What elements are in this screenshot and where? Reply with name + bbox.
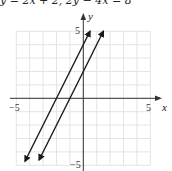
coordinate-plane: −5 5 x 5 −5 y (0, 0, 172, 171)
x-axis-label: x (161, 101, 167, 113)
plotted-lines (25, 31, 103, 161)
y-axis-arrow-icon (81, 13, 87, 20)
x-axis-arrow-icon (155, 96, 162, 102)
y-axis-label: y (87, 10, 93, 22)
y-max-tick-label: 5 (75, 25, 80, 36)
y-min-tick-label: −5 (70, 159, 81, 170)
x-min-tick-label: −5 (9, 102, 20, 113)
line-series-1 (25, 31, 90, 161)
line-series-2 (39, 31, 103, 160)
x-max-tick-label: 5 (146, 102, 151, 113)
